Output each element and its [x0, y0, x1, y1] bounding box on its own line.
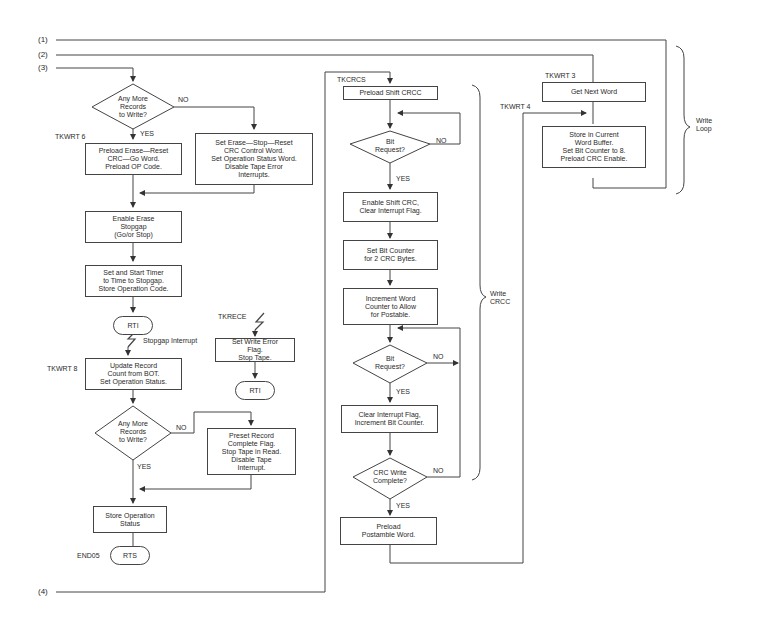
connector-3-label: (3) [38, 63, 48, 72]
label-tkwrt8: TKWRT 8 [47, 365, 77, 373]
update-record-box: Update Record Count from BOT. Set Operat… [85, 358, 182, 390]
decision-2-text: Any More Records to Write? [103, 418, 163, 446]
set-erase-stop-box: Set Erase—Stop—Reset CRC Control Word. S… [195, 133, 313, 185]
connector-2-label: (2) [38, 50, 48, 59]
decision-crc-text: CRC Write Complete? [358, 467, 422, 487]
get-next-word-box: Get Next Word [542, 82, 646, 102]
store-status-box: Store Operation Status [93, 506, 167, 533]
preset-record-box: Preset Record Complete Flag. Stop Tape i… [207, 428, 296, 475]
label-tkcrcs: TKCRCS [337, 76, 366, 84]
rti-terminal-2: RTI [235, 381, 275, 400]
store-current-box: Store in Current Word Buffer. Set Bit Co… [542, 126, 646, 168]
decision-2-yes-label: YES [137, 463, 151, 471]
flowchart-canvas: (1) (2) (3) (4) Any More Records to Writ… [0, 0, 757, 632]
enable-erase-box: Enable Erase Stopgap (Go/or Stop) [85, 211, 182, 243]
decision-crc-no-label: NO [433, 467, 444, 475]
decision-bit-1-text: Bit Request? [362, 136, 418, 156]
label-end05: END05 [77, 552, 100, 560]
decision-bit-2-no-label: NO [433, 353, 444, 361]
label-tkwrt6: TKWRT 6 [55, 133, 85, 141]
enable-shift-box: Enable Shift CRC, Clear Interrupt Flag. [343, 192, 438, 222]
decision-1-text: Any More Records to Write? [103, 93, 163, 121]
set-bit-counter-box: Set Bit Counter for 2 CRC Bytes. [343, 240, 438, 270]
set-timer-box: Set and Start Timer to Time to Stopgap. … [85, 265, 182, 297]
label-tkwrt3: TKWRT 3 [545, 72, 575, 80]
preload-postamble-box: Preload Postamble Word. [340, 517, 437, 545]
connector-4-label: (4) [38, 587, 48, 596]
clear-interrupt-box: Clear Interrupt Flag, Increment Bit Coun… [341, 405, 438, 433]
decision-bit-2-yes-label: YES [396, 388, 410, 396]
preload-shift-box: Preload Shift CRCC [343, 86, 438, 100]
decision-1-no-label: NO [178, 96, 189, 104]
connector-1-label: (1) [38, 35, 48, 44]
label-tkwrt4: TKWRT 4 [500, 103, 530, 111]
preload-erase-box: Preload Erase—Reset CRC—Go Word. Preload… [85, 143, 182, 175]
decision-bit-1-yes-label: YES [396, 175, 410, 183]
decision-bit-1-no-label: NO [436, 137, 447, 145]
stopgap-interrupt-label: Stopgap Interrupt [143, 337, 197, 345]
label-tkrece: TKRECE [218, 313, 246, 321]
decision-1-yes-label: YES [140, 130, 154, 138]
decision-bit-2-text: Bit Request? [362, 353, 418, 373]
rti-terminal-1: RTI [113, 316, 153, 335]
decision-2-no-label: NO [176, 424, 187, 432]
increment-word-box: Increment Word Counter to Allow for Post… [343, 288, 438, 325]
rts-terminal: RTS [110, 546, 150, 565]
write-loop-brace-label: Write Loop [696, 117, 712, 133]
write-crcc-brace-label: Write CRCC [490, 290, 510, 306]
decision-crc-yes-label: YES [396, 502, 410, 510]
set-write-error-box: Set Write Error Flag. Stop Tape. [215, 338, 295, 362]
